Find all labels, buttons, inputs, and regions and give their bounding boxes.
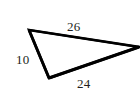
side-label-top: 26: [67, 20, 80, 33]
side-label-left: 10: [16, 53, 29, 66]
side-label-bottom: 24: [77, 77, 90, 90]
triangle-figure: 26 10 24: [0, 0, 140, 100]
triangle-shape: [0, 0, 140, 100]
